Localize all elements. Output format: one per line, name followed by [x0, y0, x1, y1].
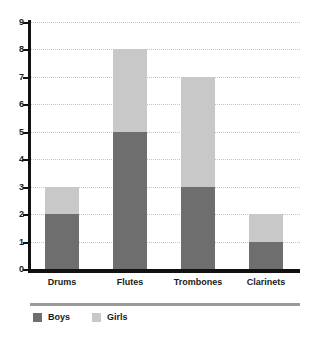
bar-segment — [113, 49, 147, 131]
x-axis-labels: DrumsFlutesTrombonesClarinets — [28, 276, 300, 292]
bar-segment — [181, 77, 215, 187]
bar-group — [249, 214, 283, 269]
legend-label-boys: Boys — [48, 313, 70, 322]
y-axis-tick-label: 6 — [19, 100, 24, 109]
legend-swatch-girls — [92, 313, 101, 322]
y-axis-tick-label: 9 — [19, 18, 24, 27]
bar-segment — [45, 187, 79, 214]
y-axis-tick-label: 2 — [19, 210, 24, 219]
legend-item-boys: Boys — [33, 313, 70, 322]
x-axis-tick-label: Drums — [48, 276, 77, 288]
y-axis-tick-label: 4 — [19, 155, 24, 164]
chart-legend: Boys Girls — [33, 313, 128, 322]
bar-group — [45, 187, 79, 269]
bar-group — [181, 77, 215, 269]
y-axis-tick-label: 5 — [19, 127, 24, 136]
stacked-bar-chart: 0123456789 DrumsFlutesTrombonesClarinets… — [0, 0, 318, 340]
legend-label-girls: Girls — [107, 313, 128, 322]
y-axis-tick-label: 0 — [19, 265, 24, 274]
legend-swatch-boys — [33, 313, 42, 322]
plot-area: 0123456789 — [28, 22, 300, 269]
legend-separator — [30, 303, 300, 306]
y-axis-tick-label: 7 — [19, 72, 24, 81]
y-axis-tick-label: 1 — [19, 237, 24, 246]
legend-item-girls: Girls — [92, 313, 128, 322]
bar-segment — [113, 132, 147, 269]
y-axis-line — [28, 20, 31, 271]
bar-segment — [249, 214, 283, 241]
x-axis-tick-label: Clarinets — [247, 276, 286, 288]
y-axis-tick-label: 8 — [19, 45, 24, 54]
x-axis-line — [28, 269, 300, 273]
bars-layer — [28, 22, 300, 269]
bar-segment — [181, 187, 215, 269]
x-axis-tick-label: Trombones — [174, 276, 223, 288]
bar-segment — [249, 242, 283, 269]
y-axis-tick-label: 3 — [19, 182, 24, 191]
x-axis-tick-label: Flutes — [117, 276, 144, 288]
bar-segment — [45, 214, 79, 269]
bar-group — [113, 49, 147, 269]
